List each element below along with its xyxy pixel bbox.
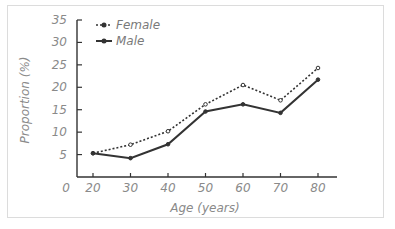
y-tick-label: 30 (52, 35, 68, 49)
y-axis-title: Proportion (%) (18, 57, 32, 144)
y-tick-label: 25 (52, 58, 67, 72)
legend: Female Male (96, 18, 160, 48)
male-point-marker-icon (166, 142, 170, 146)
line-chart: 5101520253035203040506070800 Female Male… (0, 0, 395, 229)
male-line (93, 80, 318, 159)
y-tick-label: 35 (52, 13, 67, 27)
legend-male-label: Male (116, 34, 144, 48)
data-series (91, 66, 320, 160)
male-point-marker-icon (279, 111, 283, 115)
female-point-marker-icon (204, 103, 208, 107)
y-tick-label: 20 (52, 80, 68, 94)
male-point-marker-icon (129, 156, 133, 160)
x-axis-title: Age (years) (169, 201, 239, 215)
male-point-marker-icon (91, 151, 95, 155)
legend-female-label: Female (116, 18, 160, 32)
x-tick-label: 70 (273, 181, 289, 195)
x-origin-label: 0 (62, 181, 70, 195)
legend-female-marker-icon (102, 23, 107, 28)
female-point-marker-icon (279, 98, 283, 102)
x-tick-label: 60 (235, 181, 251, 195)
legend-male-marker-icon (102, 39, 107, 44)
y-tick-label: 10 (52, 125, 68, 139)
x-tick-label: 80 (310, 181, 326, 195)
male-point-marker-icon (241, 103, 245, 107)
y-tick-label: 15 (52, 103, 67, 117)
x-tick-label: 50 (198, 181, 214, 195)
tick-labels: 5101520253035203040506070800 (52, 13, 326, 195)
female-point-marker-icon (241, 83, 245, 87)
male-point-marker-icon (204, 110, 208, 114)
female-point-marker-icon (166, 129, 170, 133)
female-point-marker-icon (129, 143, 133, 147)
x-tick-label: 40 (160, 181, 176, 195)
x-tick-label: 30 (123, 181, 139, 195)
male-point-marker-icon (316, 78, 320, 82)
y-tick-label: 5 (59, 148, 67, 162)
x-tick-label: 20 (85, 181, 101, 195)
female-point-marker-icon (316, 66, 320, 70)
